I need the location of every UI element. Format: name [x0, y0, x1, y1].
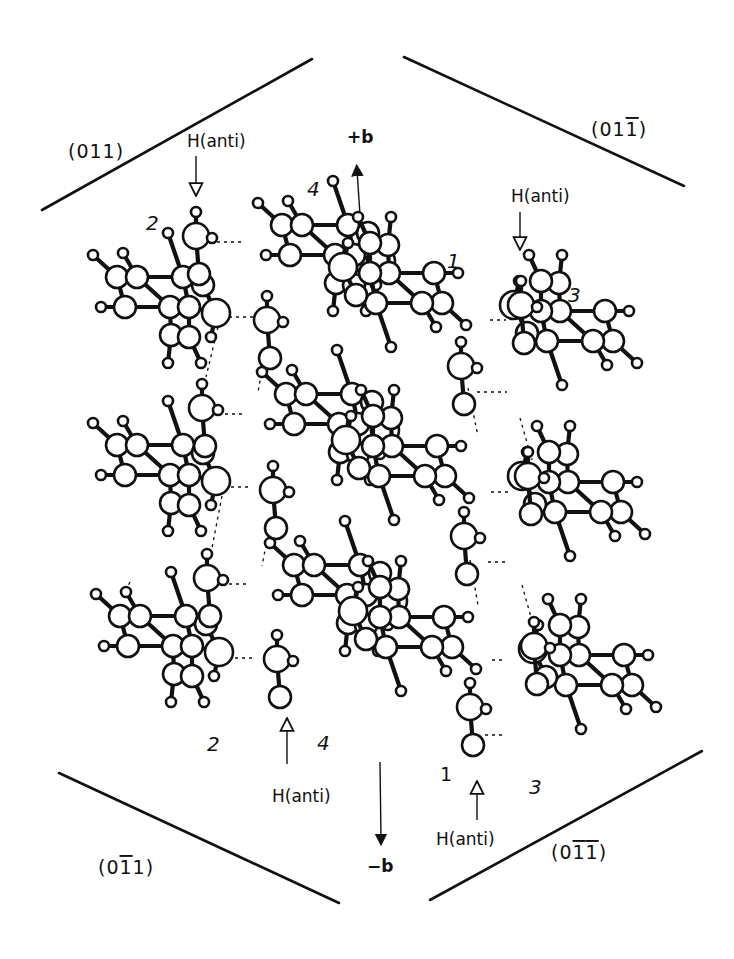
atom-h [464, 493, 474, 503]
atom-c [178, 494, 200, 516]
atom-c [594, 300, 616, 322]
atom-c [189, 395, 215, 421]
atom-c [456, 563, 478, 585]
ch-group-ch-1-r2 [451, 507, 485, 585]
atom-c [423, 262, 445, 284]
plane-label-p0-11: (011) [98, 856, 154, 878]
atom-h [209, 671, 219, 681]
atom-h [166, 567, 176, 577]
ch-group-ch-2-r1 [183, 207, 217, 285]
ch-group-ch-2-r2 [189, 379, 223, 457]
atom-c [291, 584, 313, 606]
atom-h [545, 643, 555, 653]
atom-c [359, 232, 381, 254]
atom-h [565, 421, 575, 431]
atom-h [253, 198, 263, 208]
axis-label-plus-b: +b [347, 127, 373, 147]
molecule-number-num-3-bottom: 3 [529, 775, 542, 799]
molecule-number-num-2-top: 2 [146, 211, 159, 235]
atom-c [526, 673, 548, 695]
atom-c [530, 270, 552, 292]
atom-c [536, 330, 558, 352]
atom-c [279, 244, 301, 266]
atom-c [515, 463, 541, 489]
atom-h [624, 306, 634, 316]
atom-h [328, 306, 338, 316]
atom-h [529, 617, 539, 627]
atom-c [613, 644, 635, 666]
atom-h [576, 724, 586, 734]
atom-c [549, 614, 571, 636]
atom-c [194, 435, 216, 457]
atom-c [126, 266, 148, 288]
atom-h [283, 196, 293, 206]
atom-h [389, 385, 399, 395]
atom-h [557, 250, 567, 260]
atom-h [386, 342, 396, 352]
atom-c [260, 477, 286, 503]
atom-c [178, 296, 200, 318]
ch-group-ch-4-r2 [260, 461, 294, 539]
atom-h [640, 529, 650, 539]
atom-h [472, 363, 482, 373]
atom-h [463, 612, 473, 622]
ch-group-ch-1-r3 [457, 678, 491, 756]
atom-c [259, 347, 281, 369]
atom-c [106, 266, 128, 288]
atom-c [453, 393, 475, 415]
atom-c [114, 296, 136, 318]
atom-c [520, 503, 542, 525]
atom-h [265, 419, 275, 429]
atom-h [346, 411, 356, 421]
atom-c [126, 434, 148, 456]
atom-h [163, 228, 173, 238]
atom-h [524, 250, 534, 260]
atom-h [88, 250, 98, 260]
atom-h [456, 441, 466, 451]
plane-label-p01-1: (011) [591, 118, 647, 140]
atom-c [283, 413, 305, 435]
atom-h [163, 526, 173, 536]
atom-c [181, 635, 203, 657]
atom-c [175, 605, 197, 627]
atom-c [106, 434, 128, 456]
axis-label-minus-b: −b [367, 856, 393, 876]
atom-h [91, 589, 101, 599]
atom-h [268, 461, 278, 471]
atom-c [555, 674, 577, 696]
atom-c [369, 606, 391, 628]
atom-c [172, 434, 194, 456]
atom-c [359, 262, 381, 284]
atom-h [396, 686, 406, 696]
atom-h [343, 238, 353, 248]
atom-h [273, 590, 283, 600]
atom-h [475, 533, 485, 543]
atom-h [532, 421, 542, 431]
molecule-mol-3-r3 [519, 594, 661, 734]
atom-h [332, 345, 342, 355]
atom-h [340, 516, 350, 526]
atom-h [340, 646, 350, 656]
atom-h [543, 594, 553, 604]
h-anti-label-hanti-top-left: H(anti) [187, 131, 246, 151]
atom-h [353, 212, 363, 222]
atom-c [433, 606, 455, 628]
molecule-number-num-3-top: 3 [568, 283, 581, 307]
atom-c [411, 292, 433, 314]
atom-c [348, 457, 370, 479]
atom-o [202, 299, 230, 327]
atom-c [508, 292, 534, 318]
atom-c [414, 465, 436, 487]
atom-h [206, 500, 216, 510]
atom-h [287, 365, 297, 375]
atom-h [386, 212, 396, 222]
molecule-mol-2-r1 [88, 228, 230, 368]
atom-h [602, 360, 612, 370]
atom-h [163, 358, 173, 368]
atom-c [544, 501, 566, 523]
atom-c [369, 576, 391, 598]
crystal-packing-diagram: (011)(011)(011)(011) +b−b H(anti)H(anti)… [0, 0, 734, 959]
atom-h [261, 250, 271, 260]
atom-c [362, 435, 384, 457]
atom-h [441, 666, 451, 676]
